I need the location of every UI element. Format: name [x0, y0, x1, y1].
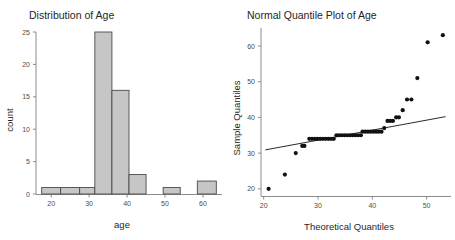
qqplot-y-tick-label: 60	[247, 43, 255, 50]
qqplot-point	[405, 97, 409, 101]
histogram-y-tick-label: 0	[26, 191, 30, 198]
histogram-y-ticks: 0 5 10 15 20 25	[22, 29, 36, 198]
qqplot-svg: Normal Quantile Plot of Age Sample Quant…	[227, 0, 455, 240]
qqplot-x-tick-label: 20	[260, 202, 268, 209]
histogram-x-ticks: 20 30 40 50 60	[47, 195, 207, 208]
histogram-bar	[163, 188, 180, 194]
histogram-y-tick-label: 20	[22, 61, 30, 68]
qqplot-point	[401, 108, 405, 112]
histogram-panel: Distribution of Age count age 0 5 10 15 …	[0, 0, 227, 240]
histogram-y-tick-label: 25	[22, 29, 30, 36]
qqplot-y-tick-label: 40	[247, 114, 255, 121]
qqplot-y-tick-label: 30	[247, 150, 255, 157]
qqplot-point	[302, 144, 306, 148]
histogram-bar	[197, 181, 216, 194]
qqplot-point	[415, 76, 419, 80]
qqplot-x-ticks: 20 30 40 50	[260, 197, 431, 210]
qqplot-point	[294, 151, 298, 155]
qqplot-title: Normal Quantile Plot of Age	[247, 9, 377, 21]
histogram-y-tick-label: 5	[26, 158, 30, 165]
qqplot-y-tick-label: 50	[247, 78, 255, 85]
histogram-bar	[42, 188, 61, 194]
qqplot-point	[391, 119, 395, 123]
histogram-bar	[95, 32, 112, 194]
histogram-bar	[129, 175, 146, 194]
qqplot-y-ticks: 20 30 40 50 60	[247, 43, 261, 193]
qqplot-x-tick-label: 40	[368, 202, 376, 209]
histogram-title: Distribution of Age	[29, 9, 114, 21]
qqplot-points	[267, 33, 445, 191]
histogram-x-tick-label: 60	[199, 200, 207, 207]
qqplot-panel: Normal Quantile Plot of Age Sample Quant…	[227, 0, 454, 240]
histogram-x-tick-label: 40	[123, 200, 131, 207]
qqplot-point	[283, 172, 287, 176]
histogram-svg: Distribution of Age count age 0 5 10 15 …	[0, 0, 227, 240]
qqplot-point	[409, 97, 413, 101]
qqplot-point	[441, 33, 445, 37]
histogram-bars	[42, 32, 217, 194]
histogram-x-tick-label: 50	[161, 200, 169, 207]
histogram-y-tick-label: 15	[22, 93, 30, 100]
histogram-bar	[80, 188, 95, 194]
qqplot-point	[359, 133, 363, 137]
qqplot-point	[332, 137, 336, 141]
qqplot-point	[382, 126, 386, 130]
qqplot-point	[426, 40, 430, 44]
qqplot-x-tick-label: 30	[314, 202, 322, 209]
qqplot-y-axis-title: Sample Quantiles	[231, 80, 242, 155]
figure-container: Distribution of Age count age 0 5 10 15 …	[0, 0, 455, 240]
histogram-bar	[61, 188, 80, 194]
histogram-x-tick-label: 30	[85, 200, 93, 207]
histogram-bar	[112, 90, 129, 194]
qqplot-point	[267, 187, 271, 191]
qqplot-point	[379, 130, 383, 134]
histogram-x-tick-label: 20	[47, 200, 55, 207]
histogram-y-axis-title: count	[4, 108, 15, 132]
qqplot-y-tick-label: 20	[247, 185, 255, 192]
histogram-y-tick-label: 10	[22, 126, 30, 133]
qqplot-x-axis-title: Theoretical Quantiles	[304, 221, 394, 232]
qqplot-point	[397, 115, 401, 119]
qqplot-x-tick-label: 50	[423, 202, 431, 209]
histogram-x-axis-title: age	[114, 219, 130, 230]
